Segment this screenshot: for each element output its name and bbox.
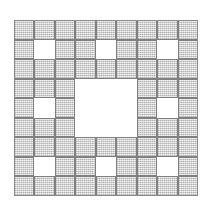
carpet-cell-filled [14, 176, 34, 196]
carpet-cell-filled [96, 59, 116, 79]
carpet-cell-filled [96, 20, 116, 40]
carpet-cell-filled [137, 98, 157, 118]
carpet-cell-hole [157, 98, 177, 118]
carpet-cell-filled [14, 137, 34, 157]
carpet-cell-filled [157, 20, 177, 40]
carpet-cell-filled [55, 20, 75, 40]
carpet-cell-filled [55, 118, 75, 138]
carpet-cell-filled [116, 40, 136, 60]
carpet-cell-filled [116, 20, 136, 40]
figure-canvas [0, 0, 209, 213]
carpet-cell-filled [116, 59, 136, 79]
carpet-cell-filled [137, 157, 157, 177]
carpet-cell-filled [178, 118, 198, 138]
carpet-cell-hole [96, 118, 116, 138]
carpet-cell-filled [157, 176, 177, 196]
carpet-cell-filled [14, 59, 34, 79]
carpet-cell-hole [96, 79, 116, 99]
carpet-cell-filled [116, 157, 136, 177]
carpet-cell-filled [34, 176, 54, 196]
carpet-cell-hole [34, 157, 54, 177]
carpet-cell-hole [116, 98, 136, 118]
carpet-cell-filled [178, 59, 198, 79]
carpet-cell-filled [75, 176, 95, 196]
carpet-cell-filled [55, 59, 75, 79]
carpet-cell-filled [137, 20, 157, 40]
carpet-cell-hole [75, 98, 95, 118]
carpet-cell-filled [178, 79, 198, 99]
carpet-cell-filled [157, 79, 177, 99]
carpet-cell-filled [178, 20, 198, 40]
carpet-cell-filled [55, 40, 75, 60]
carpet-cell-filled [34, 118, 54, 138]
carpet-cell-filled [34, 137, 54, 157]
carpet-cell-filled [75, 20, 95, 40]
carpet-cell-filled [178, 137, 198, 157]
carpet-cell-filled [34, 20, 54, 40]
carpet-cell-filled [75, 59, 95, 79]
sierpinski-carpet-grid [14, 20, 198, 196]
carpet-cell-hole [96, 98, 116, 118]
carpet-cell-filled [137, 40, 157, 60]
carpet-cell-filled [178, 40, 198, 60]
carpet-cell-filled [137, 59, 157, 79]
carpet-cell-filled [55, 176, 75, 196]
carpet-cell-hole [34, 40, 54, 60]
carpet-cell-filled [137, 79, 157, 99]
carpet-cell-hole [34, 98, 54, 118]
carpet-cell-filled [157, 137, 177, 157]
carpet-cell-filled [34, 79, 54, 99]
carpet-cell-filled [116, 176, 136, 196]
carpet-cell-filled [178, 176, 198, 196]
carpet-cell-hole [75, 118, 95, 138]
carpet-cell-hole [96, 40, 116, 60]
carpet-cell-hole [157, 157, 177, 177]
carpet-cell-filled [116, 137, 136, 157]
carpet-cell-filled [14, 79, 34, 99]
carpet-cell-hole [116, 79, 136, 99]
carpet-cell-filled [14, 40, 34, 60]
carpet-cell-filled [75, 157, 95, 177]
carpet-cell-filled [96, 137, 116, 157]
carpet-cell-filled [137, 137, 157, 157]
carpet-cell-filled [157, 59, 177, 79]
carpet-cell-filled [14, 118, 34, 138]
carpet-cell-filled [137, 176, 157, 196]
carpet-cell-hole [116, 118, 136, 138]
carpet-cell-hole [96, 157, 116, 177]
carpet-cell-filled [157, 118, 177, 138]
carpet-cell-filled [34, 59, 54, 79]
carpet-cell-hole [157, 40, 177, 60]
carpet-cell-filled [96, 176, 116, 196]
carpet-cell-filled [75, 40, 95, 60]
carpet-cell-filled [178, 98, 198, 118]
carpet-cell-filled [55, 79, 75, 99]
carpet-cell-hole [75, 79, 95, 99]
carpet-cell-filled [137, 118, 157, 138]
carpet-cell-filled [14, 157, 34, 177]
carpet-cell-filled [14, 20, 34, 40]
carpet-cell-filled [14, 98, 34, 118]
carpet-cell-filled [75, 137, 95, 157]
carpet-cell-filled [55, 98, 75, 118]
carpet-cell-filled [178, 157, 198, 177]
carpet-cell-filled [55, 157, 75, 177]
carpet-cell-filled [55, 137, 75, 157]
